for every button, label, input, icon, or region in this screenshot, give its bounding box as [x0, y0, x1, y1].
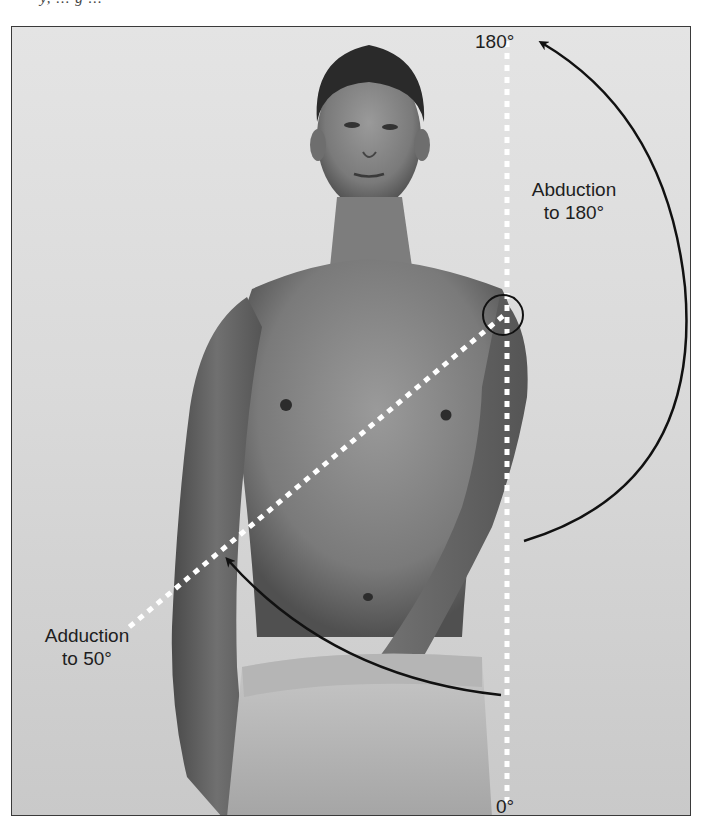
torso — [236, 259, 518, 637]
caption-fragment: y, ... g ... — [40, 0, 103, 7]
abduction-label: Abduction to 180° — [514, 178, 634, 224]
abduction-label-line2: to 180° — [514, 201, 634, 224]
abduction-label-line1: Abduction — [514, 178, 634, 201]
adduction-label-line1: Adduction — [27, 624, 147, 647]
adduction-label-line2: to 50° — [27, 647, 147, 670]
adduction-label: Adduction to 50° — [27, 624, 147, 670]
angle-label-180: 180° — [475, 30, 514, 53]
angle-label-0: 0° — [496, 795, 514, 816]
person-photo — [172, 45, 528, 816]
abduction-arrow — [524, 43, 686, 541]
figure-frame: 180° 0° Abduction to 180° Adduction to 5… — [11, 26, 691, 816]
